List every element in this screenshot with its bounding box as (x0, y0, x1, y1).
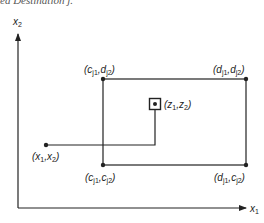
y-axis-label: x2 (12, 16, 22, 28)
label-top-left: (cj1,dj2) (84, 64, 115, 77)
target-point-label: (z1,z2) (164, 99, 191, 111)
path-line (46, 110, 155, 145)
target-point-dot (153, 102, 157, 106)
corner-dot-top-right (244, 77, 248, 81)
label-bottom-right: (dj1,cj2) (214, 172, 245, 185)
corner-dot-bottom-right (244, 163, 248, 167)
corner-dot-bottom-left (101, 163, 105, 167)
label-bottom-left: (cj1,cj2) (85, 172, 115, 185)
destination-rectangle (103, 79, 246, 165)
distance-diagram: x2 x1 (cj1,dj2) (dj1,dj2) (cj1,cj2) (dj1… (0, 0, 264, 223)
corner-dot-top-left (101, 77, 105, 81)
x-axis-label: x1 (249, 203, 259, 215)
origin-point-label: (x1,x2) (32, 151, 59, 163)
origin-point-dot (44, 143, 48, 147)
label-top-right: (dj1,dj2) (213, 64, 245, 77)
